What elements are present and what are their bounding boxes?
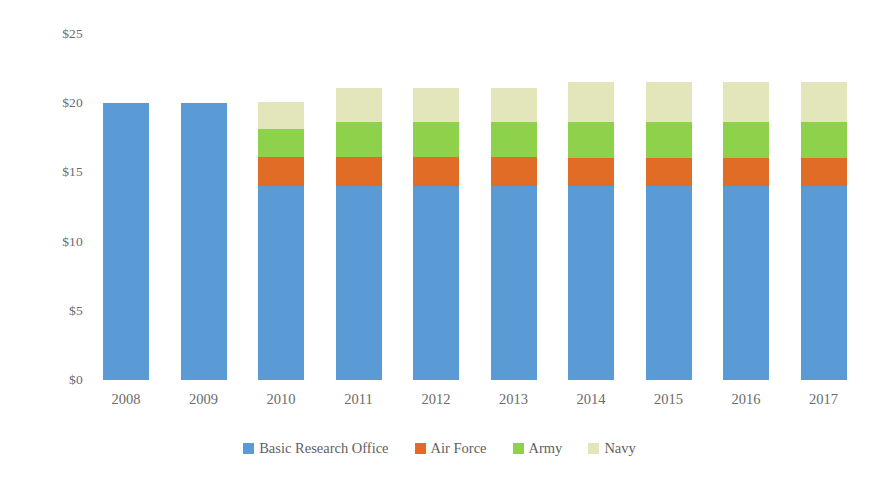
bar-column[interactable] — [801, 0, 847, 380]
y-axis-tick-label: $5 — [69, 304, 83, 318]
bar-segment-navy[interactable] — [723, 82, 769, 122]
bar-segment-basic-research-office[interactable] — [568, 186, 614, 380]
bar-segment-army[interactable] — [491, 122, 537, 157]
x-axis-tick-label: 2017 — [789, 392, 859, 407]
legend-item-label: Air Force — [431, 441, 487, 456]
x-axis-tick-label: 2009 — [169, 392, 239, 407]
bar-segment-army[interactable] — [723, 122, 769, 158]
x-axis: 2008200920102011201220132014201520162017 — [95, 392, 879, 416]
bar-column[interactable] — [646, 0, 692, 380]
bar-segment-air-force[interactable] — [491, 157, 537, 186]
bar-segment-air-force[interactable] — [258, 157, 304, 186]
y-axis-tick-label: $25 — [62, 27, 83, 41]
bar-column[interactable] — [568, 0, 614, 380]
bar-segment-basic-research-office[interactable] — [103, 103, 149, 380]
y-axis: $25$20$15$10$5$0 — [0, 0, 95, 420]
bar-segment-basic-research-office[interactable] — [181, 103, 227, 380]
legend-swatch-icon — [415, 443, 426, 454]
y-axis-tick-label: $0 — [69, 373, 83, 387]
bar-column[interactable] — [258, 0, 304, 380]
bar-column[interactable] — [181, 0, 227, 380]
bar-segment-army[interactable] — [258, 129, 304, 157]
legend-swatch-icon — [513, 443, 524, 454]
bar-segment-basic-research-office[interactable] — [336, 186, 382, 380]
bar-column[interactable] — [336, 0, 382, 380]
bar-segment-basic-research-office[interactable] — [258, 186, 304, 380]
bar-segment-basic-research-office[interactable] — [723, 186, 769, 380]
x-axis-tick-label: 2011 — [324, 392, 394, 407]
legend-item-label: Navy — [604, 441, 635, 456]
bar-segment-army[interactable] — [413, 122, 459, 157]
y-axis-tick-label: $15 — [62, 165, 83, 179]
bar-segment-air-force[interactable] — [723, 158, 769, 186]
legend-item-label: Army — [529, 441, 563, 456]
legend-item[interactable]: Basic Research Office — [243, 441, 388, 456]
bar-segment-navy[interactable] — [336, 88, 382, 123]
bar-segment-navy[interactable] — [491, 88, 537, 123]
legend-swatch-icon — [243, 443, 254, 454]
y-axis-tick-label: $10 — [62, 235, 83, 249]
bar-segment-basic-research-office[interactable] — [491, 186, 537, 380]
bar-segment-air-force[interactable] — [413, 157, 459, 186]
x-axis-tick-label: 2014 — [556, 392, 626, 407]
stacked-bar-chart: $25$20$15$10$5$0 20082009201020112012201… — [0, 0, 879, 479]
bar-segment-navy[interactable] — [568, 82, 614, 122]
bar-segment-basic-research-office[interactable] — [646, 186, 692, 380]
bar-segment-air-force[interactable] — [801, 158, 847, 186]
bar-column[interactable] — [723, 0, 769, 380]
bar-segment-navy[interactable] — [258, 102, 304, 130]
bar-segment-basic-research-office[interactable] — [413, 186, 459, 380]
legend-item[interactable]: Navy — [588, 441, 635, 456]
legend-swatch-icon — [588, 443, 599, 454]
legend-item[interactable]: Air Force — [415, 441, 487, 456]
legend-item-label: Basic Research Office — [259, 441, 388, 456]
bar-segment-navy[interactable] — [646, 82, 692, 122]
bar-column[interactable] — [103, 0, 149, 380]
x-axis-tick-label: 2008 — [91, 392, 161, 407]
bar-column[interactable] — [413, 0, 459, 380]
plot-bars — [95, 0, 879, 400]
bar-segment-army[interactable] — [568, 122, 614, 158]
bar-segment-air-force[interactable] — [336, 157, 382, 186]
x-axis-tick-label: 2013 — [479, 392, 549, 407]
bar-segment-army[interactable] — [336, 122, 382, 157]
x-axis-tick-label: 2015 — [634, 392, 704, 407]
x-axis-tick-label: 2016 — [711, 392, 781, 407]
bar-segment-navy[interactable] — [413, 88, 459, 123]
y-axis-tick-label: $20 — [62, 96, 83, 110]
bar-segment-navy[interactable] — [801, 82, 847, 122]
bar-segment-army[interactable] — [646, 122, 692, 158]
bar-column[interactable] — [491, 0, 537, 380]
bar-segment-basic-research-office[interactable] — [801, 186, 847, 380]
bar-segment-army[interactable] — [801, 122, 847, 158]
chart-legend: Basic Research OfficeAir ForceArmyNavy — [0, 436, 879, 460]
x-axis-tick-label: 2010 — [246, 392, 316, 407]
bar-segment-air-force[interactable] — [646, 158, 692, 186]
legend-item[interactable]: Army — [513, 441, 563, 456]
x-axis-tick-label: 2012 — [401, 392, 471, 407]
bar-segment-air-force[interactable] — [568, 158, 614, 186]
